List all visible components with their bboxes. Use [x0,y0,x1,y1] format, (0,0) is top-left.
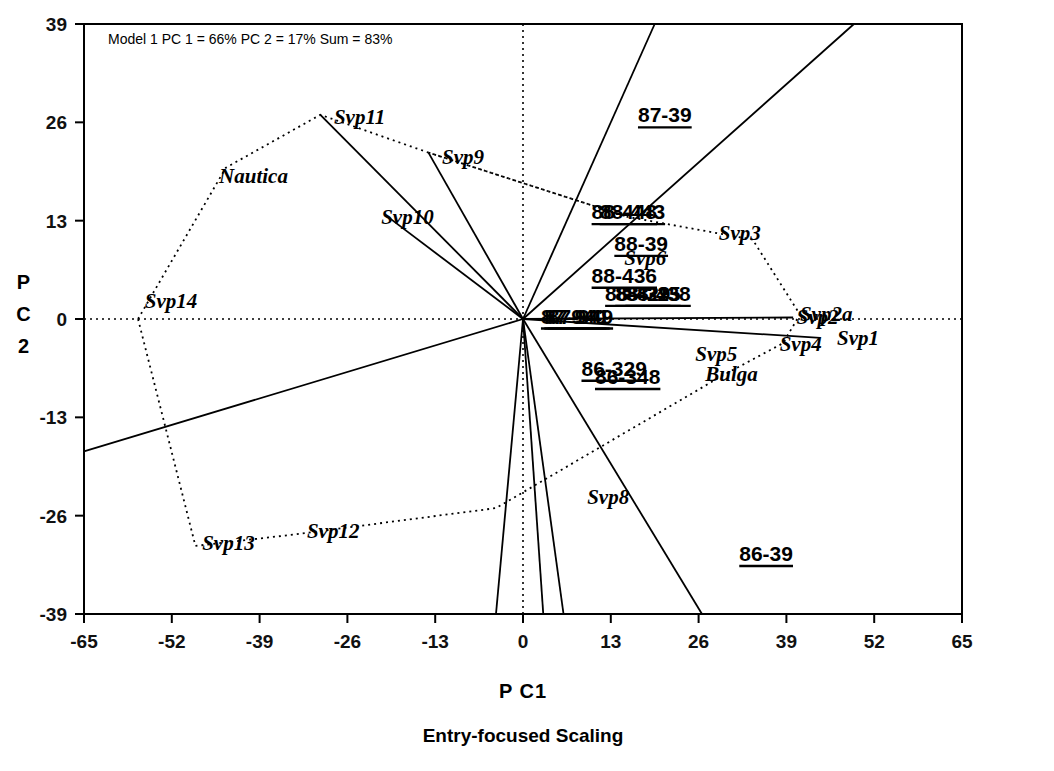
biplot-svg: -65-52-39-26-13013263952653926130-13-26-… [0,0,1054,771]
variable-vector-svp3 [523,24,854,319]
variable-vector-svp5 [523,319,543,614]
biplot-figure: -65-52-39-26-13013263952653926130-13-26-… [0,0,1054,771]
x-tick-label: -13 [421,631,448,652]
y-tick-label: 0 [56,309,67,330]
x-axis-title: P C1 [499,680,547,702]
variable-label-svp13: Svp13 [202,531,255,555]
object-label-87-39: 87-39 [638,103,692,126]
y-tick-label: -13 [40,407,67,428]
variable-label-bulga: Bulga [704,362,758,386]
x-tick-label: -39 [246,631,273,652]
object-label-86-348: 86-348 [595,365,661,388]
variable-label-svp12: Svp12 [307,519,360,543]
variable-vector-svp7 [523,319,564,614]
object-label-88-325: 88-325 [615,282,681,305]
model-annotation: Model 1 PC 1 = 66% PC 2 = 17% Sum = 83% [108,31,392,47]
object-label-88-39: 88-39 [614,232,668,255]
variable-label-svp1: Svp1 [837,326,879,350]
x-tick-label: -65 [70,631,98,652]
variable-label-svp11: Svp11 [334,105,385,129]
variable-label-nautica: Nautica [218,164,288,188]
variable-vector-svp8 [496,319,523,614]
y-axis-title-char: P [17,271,31,293]
variable-label-svp10: Svp10 [381,205,434,229]
variable-label-svp8: Svp8 [587,485,630,509]
y-tick-label: -26 [40,506,67,527]
variable-vector-svp14 [84,319,523,451]
x-tick-label: 39 [776,631,797,652]
variable-label-svp9: Svp9 [442,145,485,169]
variable-label-svp4: Svp4 [780,332,822,356]
y-tick-label: 13 [46,211,67,232]
x-tick-label: 52 [864,631,885,652]
x-tick-label: 13 [600,631,621,652]
chart-subtitle: Entry-focused Scaling [423,725,624,746]
object-label-86-39: 86-39 [739,542,793,565]
object-label-88-443: 88-443 [600,200,665,223]
x-tick-label: 65 [951,631,973,652]
x-tick-label: -52 [158,631,185,652]
variable-label-svp14: Svp14 [145,289,198,313]
variable-label-svp3: Svp3 [719,221,761,245]
variable-vector-svp10 [388,217,523,319]
y-tick-label: 39 [46,14,67,35]
x-tick-label: 26 [688,631,709,652]
y-tick-label: 26 [46,112,67,133]
y-axis-title-char: 2 [18,335,30,357]
x-tick-label: 0 [518,631,529,652]
variable-vector-svp9 [428,153,523,319]
x-tick-label: -26 [334,631,361,652]
variable-label-svp2a: Svp2a [800,302,853,326]
plot-generated-content: -65-52-39-26-13013263952653926130-13-26-… [16,14,973,746]
y-axis-title-char: C [16,303,31,325]
object-label-87-949: 87-949 [548,305,613,328]
y-tick-label: -39 [40,604,67,625]
